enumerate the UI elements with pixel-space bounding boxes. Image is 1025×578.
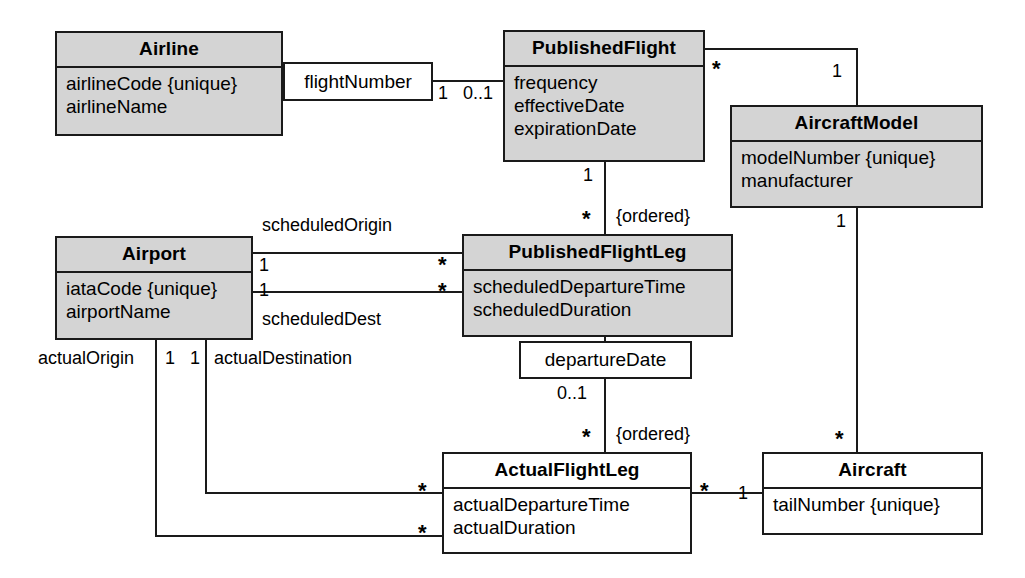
multiplicity-actualdestination-one: 1	[190, 349, 200, 367]
class-aircraft-attributes: tailNumber {unique}	[764, 489, 981, 523]
link-publishedflight-to-aircraftmodel-h	[705, 48, 858, 50]
attribute: airlineCode {unique}	[66, 72, 272, 95]
multiplicity-actualleg-actualdestination-many: *	[418, 484, 427, 498]
multiplicity-airport-scheduleddest-one: 1	[259, 281, 269, 299]
link-actualorigin-v	[155, 340, 157, 537]
class-airport-title: Airport	[57, 238, 251, 271]
multiplicity-actualleg-actualorigin-many: *	[418, 526, 427, 540]
link-aircraftmodel-to-aircraft	[856, 208, 858, 454]
attribute: iataCode {unique}	[66, 277, 242, 300]
multiplicity-aircraft-actualleg-one: 1	[738, 484, 748, 502]
class-publishedflightleg-title: PublishedFlightLeg	[464, 236, 731, 269]
multiplicity-aircraftmodel-one: 1	[832, 62, 842, 80]
association-class-departuredate-label: departureDate	[545, 349, 666, 371]
class-airport-attributes: iataCode {unique} airportName	[57, 273, 251, 330]
multiplicity-leg-scheduledorigin-many: *	[438, 258, 447, 272]
multiplicity-publishedflight-many: *	[712, 62, 721, 76]
attribute: tailNumber {unique}	[773, 493, 972, 516]
constraint-ordered-publishedflightleg: {ordered}	[616, 207, 690, 225]
multiplicity-airline-one: 1	[438, 84, 448, 102]
role-actualorigin: actualOrigin	[38, 349, 134, 367]
role-scheduleddest: scheduledDest	[262, 310, 381, 328]
link-departuredate-to-actualleg	[604, 378, 606, 454]
attribute: airlineName	[66, 95, 272, 118]
multiplicity-leg-scheduleddest-many: *	[438, 284, 447, 298]
role-actualdestination: actualDestination	[214, 349, 352, 367]
class-actualflightleg-title: ActualFlightLeg	[444, 454, 690, 487]
multiplicity-publishedflightleg-many: *	[582, 212, 591, 226]
class-aircraftmodel-title: AircraftModel	[732, 107, 981, 140]
link-publishedflight-to-aircraftmodel-v	[856, 48, 858, 107]
class-airline[interactable]: Airline airlineCode {unique} airlineName	[55, 31, 283, 136]
multiplicity-actualorigin-one: 1	[165, 349, 175, 367]
class-actualflightleg[interactable]: ActualFlightLeg actualDepartureTime actu…	[442, 452, 692, 554]
role-scheduledorigin: scheduledOrigin	[262, 216, 392, 234]
attribute: airportName	[66, 300, 242, 323]
attribute: effectiveDate	[514, 94, 694, 117]
association-class-flightnumber[interactable]: flightNumber	[283, 62, 433, 101]
attribute: scheduledDuration	[473, 298, 722, 321]
link-actualorigin-h	[155, 535, 444, 537]
link-actualdestination-h	[205, 492, 444, 494]
multiplicity-airport-scheduledorigin-one: 1	[259, 256, 269, 274]
link-scheduleddest	[253, 291, 464, 293]
class-publishedflight-attributes: frequency effectiveDate expirationDate	[505, 67, 703, 147]
class-actualflightleg-attributes: actualDepartureTime actualDuration	[444, 489, 690, 546]
attribute: actualDuration	[453, 516, 681, 539]
multiplicity-aircraft-many: *	[835, 432, 844, 446]
attribute: frequency	[514, 71, 694, 94]
class-aircraft-title: Aircraft	[764, 454, 981, 487]
multiplicity-publishedflight-zero-one: 0..1	[463, 84, 493, 102]
multiplicity-aircraftmodel-aircraft-one: 1	[836, 212, 846, 230]
attribute: modelNumber {unique}	[741, 146, 972, 169]
multiplicity-departuredate-zero-one: 0..1	[557, 384, 587, 402]
attribute: scheduledDepartureTime	[473, 275, 722, 298]
class-airline-attributes: airlineCode {unique} airlineName	[57, 68, 281, 125]
link-scheduledorigin	[253, 252, 464, 254]
class-aircraft[interactable]: Aircraft tailNumber {unique}	[762, 452, 983, 535]
class-airline-title: Airline	[57, 33, 281, 66]
attribute: actualDepartureTime	[453, 493, 681, 516]
multiplicity-actualflightleg-many: *	[582, 430, 591, 444]
attribute: manufacturer	[741, 169, 972, 192]
uml-diagram-canvas: Airline airlineCode {unique} airlineName…	[0, 0, 1025, 578]
attribute: expirationDate	[514, 117, 694, 140]
class-publishedflightleg[interactable]: PublishedFlightLeg scheduledDepartureTim…	[462, 234, 733, 337]
multiplicity-publishedflight-leg-one: 1	[583, 166, 593, 184]
class-publishedflight[interactable]: PublishedFlight frequency effectiveDate …	[503, 30, 705, 162]
class-aircraftmodel-attributes: modelNumber {unique} manufacturer	[732, 142, 981, 199]
class-publishedflightleg-attributes: scheduledDepartureTime scheduledDuration	[464, 271, 731, 328]
class-airport[interactable]: Airport iataCode {unique} airportName	[55, 236, 253, 340]
class-aircraftmodel[interactable]: AircraftModel modelNumber {unique} manuf…	[730, 105, 983, 208]
constraint-ordered-actualflightleg: {ordered}	[616, 425, 690, 443]
association-class-flightnumber-label: flightNumber	[304, 71, 412, 93]
multiplicity-actualleg-aircraft-many: *	[700, 484, 709, 498]
link-actualdestination-v	[205, 340, 207, 494]
class-publishedflight-title: PublishedFlight	[505, 32, 703, 65]
association-class-departuredate[interactable]: departureDate	[519, 341, 692, 379]
link-flightnumber-to-publishedflight	[432, 80, 505, 82]
link-publishedflight-to-leg	[604, 162, 606, 236]
